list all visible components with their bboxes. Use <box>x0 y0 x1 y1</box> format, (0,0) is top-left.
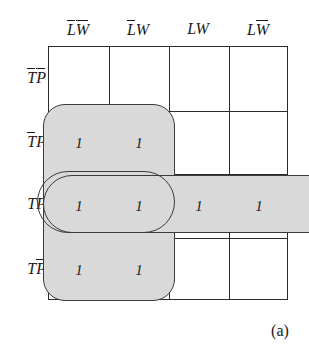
karnaugh-map-figure: LW LW LW LW TP TP TP TP 1 1 1 1 1 1 1 1 … <box>0 0 309 352</box>
row-header-1: TP <box>2 132 46 151</box>
cell-r3c1: 1 <box>109 262 169 278</box>
row-header-0: TP <box>2 68 46 87</box>
kmap-grid: 1 1 1 1 1 1 1 1 <box>48 46 288 300</box>
cell-r1c0: 1 <box>49 135 109 151</box>
cell-r2c2: 1 <box>169 198 229 214</box>
cell-r2c0: 1 <box>49 198 109 214</box>
figure-caption: (a) <box>255 322 305 340</box>
column-header-1: LW <box>108 20 168 39</box>
cell-r2c3: 1 <box>229 198 289 214</box>
row-header-3: TP <box>2 259 46 278</box>
grid-vline-3 <box>229 47 230 299</box>
cell-r2c1: 1 <box>109 198 169 214</box>
cell-r3c0: 1 <box>49 262 109 278</box>
cell-r1c1: 1 <box>109 135 169 151</box>
column-header-0: LW <box>48 20 108 39</box>
column-header-3: LW <box>228 20 288 39</box>
column-header-2: LW <box>168 20 228 38</box>
